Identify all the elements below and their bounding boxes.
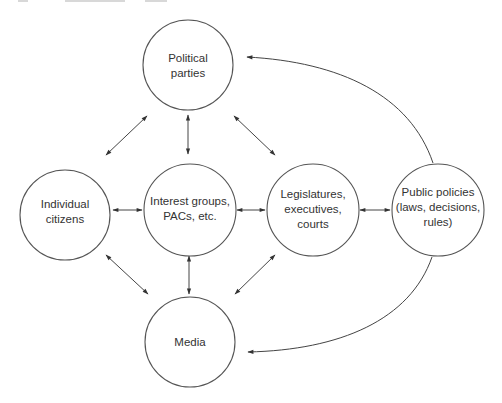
node-political-parties: Political parties	[143, 20, 233, 110]
node-label: Individual	[41, 198, 90, 210]
node-legislatures: Legislatures, executives, courts	[267, 164, 359, 256]
node-label: (laws, decisions,	[396, 201, 480, 213]
edge-legislatures-parties	[234, 116, 275, 155]
edge-policies-parties-curve	[247, 57, 433, 163]
node-label: Legislatures,	[280, 188, 345, 200]
node-label: citizens	[46, 213, 85, 225]
node-label: PACs, etc.	[163, 210, 216, 222]
node-label: Political	[168, 52, 208, 64]
node-media: Media	[145, 297, 235, 387]
node-label: Media	[174, 336, 206, 348]
node-label: Public policies	[402, 186, 475, 198]
edge-legislatures-media	[235, 255, 275, 294]
node-label: executives,	[284, 203, 342, 215]
node-label: parties	[171, 67, 206, 79]
node-individual-citizens: Individual citizens	[20, 170, 110, 260]
edge-citizens-media	[106, 255, 148, 294]
edge-citizens-parties	[106, 116, 147, 155]
node-interest-groups: Interest groups, PACs, etc.	[144, 164, 236, 256]
political-process-diagram: Political parties Individual citizens In…	[0, 0, 502, 403]
node-label: rules)	[424, 216, 453, 228]
node-label: courts	[297, 218, 329, 230]
edge-policies-media-curve	[248, 257, 432, 352]
node-label: Interest groups,	[150, 195, 230, 207]
node-public-policies: Public policies (laws, decisions, rules)	[392, 164, 484, 256]
